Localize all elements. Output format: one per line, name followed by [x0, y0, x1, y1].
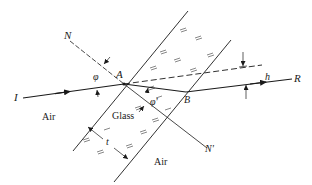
glass-slab-refraction-diagram: N φ A φ' B h R I Air Glass t Air N': [0, 0, 312, 185]
label-point-b: B: [184, 94, 190, 105]
t-arrow-right: [114, 148, 128, 159]
incident-ray: [23, 84, 124, 98]
label-point-a: A: [115, 68, 123, 80]
h-tick-top: [239, 66, 247, 67]
label-medium-right: Air: [154, 156, 168, 167]
label-angle-refraction: φ': [150, 96, 159, 107]
t-arrow-left: [88, 127, 103, 139]
phi-prime-arrow-ray: [147, 88, 148, 93]
emergent-ray: [186, 79, 292, 92]
incident-ray-arrow: [55, 92, 70, 94]
label-displacement-h: h: [265, 71, 270, 82]
incident-ray-extension: [124, 65, 262, 84]
label-emergent-ray: R: [293, 72, 301, 84]
label-medium-slab: Glass: [112, 110, 134, 121]
phi-arrow-ray: [97, 90, 98, 97]
label-medium-left: Air: [42, 111, 56, 122]
normal-line-lower: [124, 84, 207, 148]
phi-arrow-normal: [104, 57, 110, 64]
point-a-marker: [122, 82, 125, 85]
label-angle-incidence: φ: [93, 71, 99, 82]
label-incident-ray: I: [13, 91, 19, 103]
label-normal-top: N: [63, 29, 72, 41]
glass-left-surface: [73, 11, 188, 151]
label-thickness-t: t: [106, 136, 109, 147]
label-normal-bottom: N': [204, 143, 215, 154]
